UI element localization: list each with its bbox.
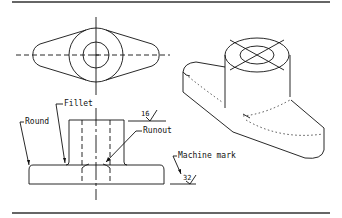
machine-mark-label: Machine mark [178, 151, 236, 160]
surface-finish-value-lower: 32 [183, 174, 191, 182]
isometric-view [183, 38, 324, 158]
round-callout: Round [20, 117, 49, 165]
surface-finish-value-upper: 16 [141, 110, 149, 118]
runout-label: Runout [143, 126, 172, 135]
top-view [16, 17, 170, 95]
front-view [29, 108, 164, 200]
runout-callout: Runout [106, 126, 172, 162]
fillet-label: Fillet [64, 99, 93, 108]
machine-mark-callout: Machine mark 32 [170, 151, 236, 184]
surface-finish-16: 16 [128, 110, 166, 121]
round-label: Round [25, 117, 49, 126]
fillet-callout: Fillet [56, 99, 93, 163]
technical-drawing: Fillet Round Runout 16 Machine mark 32 [0, 0, 342, 218]
